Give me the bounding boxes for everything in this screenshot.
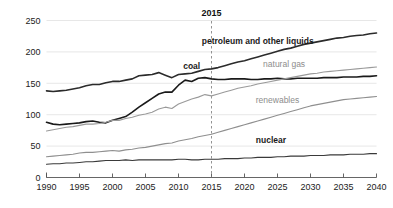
chart-annotation-labels: 2015 <box>201 8 221 18</box>
series-label-renewables: renewables <box>256 95 299 105</box>
x-tick-label-2005: 2005 <box>135 182 155 192</box>
series-label-nuclear: nuclear <box>256 135 287 145</box>
series-label-natural-gas: natural gas <box>263 59 305 69</box>
x-axis-tick-labels: 1990199520002005201020152020202520302035… <box>36 182 386 192</box>
x-tick-label-2010: 2010 <box>168 182 188 192</box>
x-tick-label-2000: 2000 <box>102 182 122 192</box>
annotation-label-2015: 2015 <box>201 8 221 18</box>
chart-canvas: 050100150200250 199019952000200520102015… <box>0 0 393 208</box>
series-label-coal: coal <box>183 61 200 71</box>
energy-consumption-line-chart: 050100150200250 199019952000200520102015… <box>0 0 393 208</box>
x-tick-label-2030: 2030 <box>300 182 320 192</box>
y-tick-label-200: 200 <box>25 47 40 57</box>
series-inline-labels: petroleum and other liquidscoalnatural g… <box>183 36 314 145</box>
x-tick-label-2015: 2015 <box>201 182 221 192</box>
y-tick-label-100: 100 <box>25 110 40 120</box>
x-tick-label-2035: 2035 <box>333 182 353 192</box>
x-tick-label-2025: 2025 <box>267 182 287 192</box>
x-tick-label-1990: 1990 <box>36 182 56 192</box>
x-tick-label-2040: 2040 <box>366 182 386 192</box>
series-label-petroleum-and-other-liquids: petroleum and other liquids <box>202 36 314 46</box>
y-axis-tick-labels: 050100150200250 <box>25 16 40 183</box>
y-tick-label-250: 250 <box>25 16 40 26</box>
x-tick-label-1995: 1995 <box>69 182 89 192</box>
x-tick-label-2020: 2020 <box>234 182 254 192</box>
y-tick-label-50: 50 <box>30 141 40 151</box>
y-tick-label-150: 150 <box>25 79 40 89</box>
